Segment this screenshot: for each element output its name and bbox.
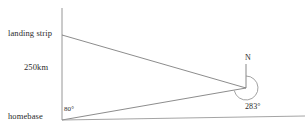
- homebase-to-plane-line: [62, 88, 246, 120]
- north-label: N: [245, 54, 251, 62]
- landing-strip-to-plane-line: [62, 35, 246, 88]
- homebase-label: homebase: [8, 112, 43, 121]
- distance-label: 250km: [24, 63, 48, 72]
- landing-strip-label: landing strip: [8, 29, 52, 38]
- horizontal-baseline: [62, 116, 305, 120]
- bearing-diagram: landing strip 250km homebase 80° N 283°: [0, 0, 307, 130]
- bearing-angle-label: 283°: [245, 103, 261, 111]
- homebase-angle-label: 80°: [64, 106, 74, 113]
